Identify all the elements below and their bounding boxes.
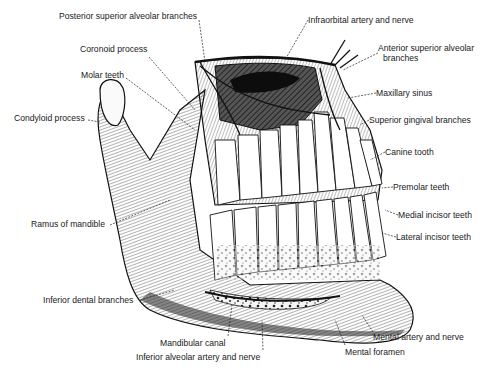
label-coronoid-process: Coronoid process <box>80 44 147 54</box>
label-premolar-teeth: Premolar teeth <box>393 182 449 192</box>
label-lateral-incisor-teeth: Lateral incisor teeth <box>396 232 471 242</box>
label-maxillary-sinus: Maxillary sinus <box>376 88 432 98</box>
label-medial-incisor-teeth: Medial incisor teeth <box>398 210 472 220</box>
label-condyloid-process: Condyloid process <box>14 113 85 123</box>
label-infraorbital-artery-and-nerve: Infraorbital artery and nerve <box>308 15 414 25</box>
label-inferior-dental-branches: Inferior dental branches <box>43 295 133 305</box>
label-ramus-of-mandible: Ramus of mandible <box>31 219 105 229</box>
label-canine-tooth: Canine tooth <box>385 147 434 157</box>
label-anterior-superior-alveolar-branches: Anterior superior alveolar <box>378 43 474 53</box>
jaw-teeth-anatomy-diagram: Posterior superior alveolar branches Cor… <box>0 0 491 375</box>
label-anterior-superior-alveolar-branches-line2: branches <box>383 53 418 63</box>
label-superior-gingival-branches: Superior gingival branches <box>369 115 471 125</box>
alveolar-bone <box>215 245 380 280</box>
label-mental-artery-and-nerve: Mental artery and nerve <box>373 332 464 342</box>
label-mental-foramen: Mental foramen <box>345 347 405 357</box>
label-posterior-superior-alveolar-branches: Posterior superior alveolar branches <box>59 11 197 21</box>
label-molar-teeth: Molar teeth <box>81 70 124 80</box>
label-inferior-alveolar-artery-and-nerve: Inferior alveolar artery and nerve <box>136 352 260 362</box>
label-mandibular-canal: Mandibular canal <box>160 338 225 348</box>
